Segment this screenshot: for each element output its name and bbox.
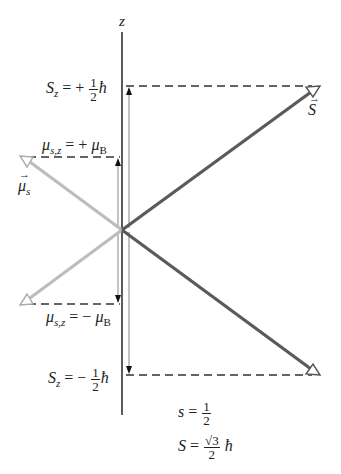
arrowhead-icon bbox=[126, 366, 132, 374]
vector-mu: μ bbox=[18, 178, 26, 194]
arrowhead-icon bbox=[115, 158, 121, 166]
arrowhead-icon bbox=[126, 87, 132, 95]
s-lhs: s bbox=[178, 403, 184, 420]
arrowhead-hollow-icon bbox=[20, 156, 33, 167]
mu-vector-up bbox=[30, 162, 122, 230]
mu-plus-eq: = + bbox=[65, 136, 87, 153]
sz-plus-sub: z bbox=[54, 87, 58, 99]
s-value-label: s = 12 bbox=[178, 400, 212, 427]
z-axis-label: z bbox=[119, 14, 125, 29]
sz-minus-label: Sz = − 12ħ bbox=[48, 366, 109, 393]
mu-minus-lhs: μ bbox=[46, 308, 54, 325]
sz-minus-fraction: 12 bbox=[91, 366, 100, 393]
sz-plus-fraction: 12 bbox=[89, 76, 98, 103]
sz-plus-label: Sz = + 12ħ bbox=[46, 76, 107, 103]
mu-minus-rhs-sub: B bbox=[103, 316, 110, 328]
spin-vector-up bbox=[122, 92, 311, 230]
diagram-canvas bbox=[0, 0, 341, 474]
S-value-label: S = √32 ħ bbox=[178, 434, 233, 461]
mu-plus-lhs: μ bbox=[42, 136, 50, 153]
mu-plus-rhs-sub: B bbox=[99, 144, 106, 156]
sz-minus-lhs: S bbox=[48, 369, 56, 386]
sz-plus-eq: = + bbox=[62, 79, 84, 96]
spin-vector-down bbox=[122, 230, 311, 369]
mu-plus-label: μs,z = + μB bbox=[42, 137, 107, 153]
arrowhead-icon bbox=[115, 295, 121, 303]
s-eq: = bbox=[188, 403, 197, 420]
mu-minus-eq: = − bbox=[69, 308, 91, 325]
s-fraction: 12 bbox=[202, 400, 211, 427]
spin-vector-label: S bbox=[308, 102, 316, 118]
vector-S: S bbox=[308, 102, 316, 118]
S-lhs: S bbox=[178, 437, 186, 454]
S-eq: = bbox=[190, 437, 199, 454]
sz-minus-sub: z bbox=[56, 377, 60, 389]
hbar-symbol: ħ bbox=[99, 79, 107, 96]
mu-minus-sub: s,z bbox=[54, 316, 65, 328]
mu-plus-sub: s,z bbox=[50, 144, 61, 156]
vector-mu-sub: s bbox=[26, 185, 30, 197]
S-fraction: √32 bbox=[204, 434, 220, 461]
moment-vector-label: μs bbox=[18, 178, 30, 194]
mu-vector-down bbox=[30, 230, 122, 298]
sz-plus-lhs: S bbox=[46, 79, 54, 96]
hbar-symbol: ħ bbox=[225, 437, 233, 454]
sz-minus-eq: = − bbox=[64, 369, 86, 386]
hbar-symbol: ħ bbox=[101, 369, 109, 386]
mu-minus-label: μs,z = − μB bbox=[46, 309, 111, 325]
